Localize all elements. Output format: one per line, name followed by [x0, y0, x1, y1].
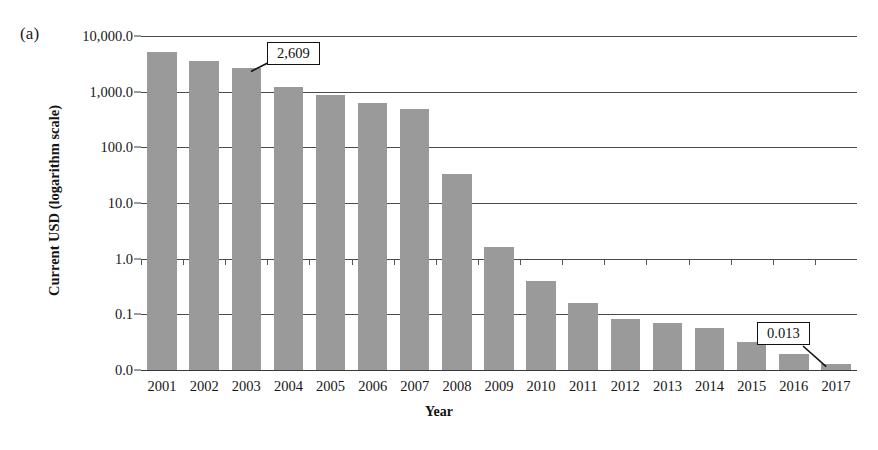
y-tick-mark: [134, 36, 141, 37]
minor-tick: [478, 259, 479, 265]
y-tick-mark: [134, 91, 141, 92]
gridline: [141, 370, 857, 371]
y-tick-label: 1,000.0: [47, 83, 133, 100]
y-tick-label: 0.0: [47, 362, 133, 379]
minor-tick: [141, 259, 142, 265]
bar-2015: [737, 342, 766, 370]
bar-2005: [316, 95, 345, 370]
y-tick-mark: [134, 258, 141, 259]
chart-figure: (a) Current USD (logarithm scale) 10,000…: [0, 0, 878, 450]
bar-2007: [400, 109, 429, 370]
minor-tick: [689, 259, 690, 265]
bar-2006: [358, 103, 387, 370]
bar-2016: [779, 354, 808, 370]
minor-tick: [225, 259, 226, 265]
minor-tick: [183, 259, 184, 265]
minor-tick: [309, 259, 310, 265]
minor-tick: [394, 259, 395, 265]
plot-area: [141, 36, 857, 370]
y-tick-label: 10.0: [47, 195, 133, 212]
y-tick-label: 10,000.0: [47, 28, 133, 45]
x-tick-label: 2017: [809, 378, 863, 395]
bar-2011: [568, 303, 597, 370]
y-tick-mark: [134, 203, 141, 204]
y-tick-label: 1.0: [47, 250, 133, 267]
minor-tick: [562, 259, 563, 265]
bar-2013: [653, 323, 682, 370]
bar-2008: [442, 174, 471, 370]
bar-2014: [695, 328, 724, 370]
bar-2004: [274, 87, 303, 370]
panel-label: (a): [20, 24, 39, 44]
minor-tick: [520, 259, 521, 265]
y-tick-mark: [134, 147, 141, 148]
minor-tick: [436, 259, 437, 265]
y-tick-mark: [134, 370, 141, 371]
x-axis-title: Year: [0, 404, 878, 420]
bar-2003: [232, 68, 261, 370]
bar-2012: [611, 319, 640, 370]
y-tick-label: 0.1: [47, 306, 133, 323]
minor-tick: [731, 259, 732, 265]
minor-tick: [773, 259, 774, 265]
gridline: [141, 36, 857, 37]
minor-tick: [267, 259, 268, 265]
bar-2002: [189, 61, 218, 370]
minor-tick: [604, 259, 605, 265]
minor-tick: [646, 259, 647, 265]
bar-2001: [147, 52, 176, 370]
annotation-2609: 2,609: [267, 42, 320, 65]
bar-2017: [821, 364, 850, 370]
y-tick-label: 100.0: [47, 139, 133, 156]
minor-tick: [352, 259, 353, 265]
bar-2009: [484, 247, 513, 370]
minor-tick: [815, 259, 816, 265]
bar-2010: [526, 281, 555, 370]
y-tick-mark: [134, 314, 141, 315]
annotation-0013: 0.013: [757, 322, 810, 345]
